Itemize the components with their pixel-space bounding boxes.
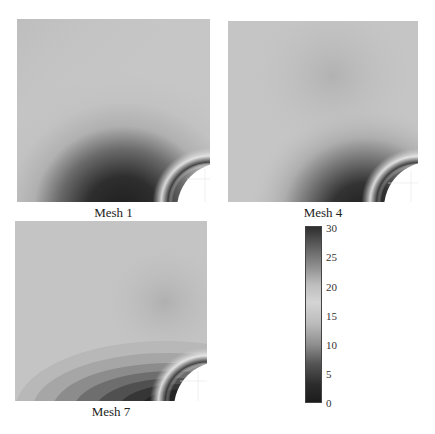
colorbar-tick-5: 5 <box>326 369 332 380</box>
mesh7-field <box>15 221 207 401</box>
colorbar-tick-20: 20 <box>326 282 337 293</box>
mesh7-caption: Mesh 7 <box>15 404 207 420</box>
mesh4-plot <box>228 21 418 202</box>
mesh1-field <box>17 19 210 202</box>
colorbar-tick-30: 30 <box>326 223 337 234</box>
mesh4-caption: Mesh 4 <box>228 205 418 221</box>
mesh1-plot <box>17 19 210 202</box>
colorbar <box>305 226 322 403</box>
colorbar-tick-10: 10 <box>326 340 337 351</box>
mesh1-caption: Mesh 1 <box>17 205 210 221</box>
colorbar-tick-0: 0 <box>326 398 332 409</box>
colorbar-tick-15: 15 <box>326 311 337 322</box>
colorbar-tick-25: 25 <box>326 252 337 263</box>
mesh7-plot <box>15 221 207 401</box>
mesh4-field <box>228 21 418 202</box>
